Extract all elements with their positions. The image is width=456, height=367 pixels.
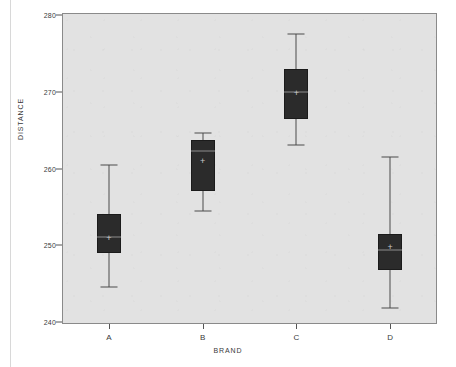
boxplot-figure: 240250260270280 DISTANCE ABCD BRAND ++++: [0, 0, 456, 367]
whisker-cap-lower-d: [382, 308, 399, 309]
y-tick-mark-260: [56, 168, 62, 169]
whisker-lower-c: [296, 119, 297, 146]
x-tick-label-a: A: [106, 333, 111, 342]
median-line-b: [191, 150, 215, 151]
whisker-upper-b: [202, 133, 203, 140]
y-axis-title: DISTANCE: [17, 98, 24, 140]
mean-marker-c: +: [294, 89, 299, 98]
whisker-cap-lower-c: [288, 145, 305, 146]
mean-marker-a: +: [106, 233, 111, 242]
x-tick-mark-b: [203, 324, 204, 329]
x-tick-mark-c: [296, 324, 297, 329]
whisker-lower-d: [390, 270, 391, 308]
whisker-upper-c: [296, 34, 297, 69]
whisker-upper-a: [108, 165, 109, 214]
mean-marker-d: +: [387, 242, 392, 251]
x-tick-label-d: D: [387, 333, 393, 342]
x-tick-label-b: B: [200, 333, 205, 342]
x-axis-title: BRAND: [0, 347, 456, 354]
whisker-cap-upper-d: [382, 156, 399, 157]
y-tick-label-240: 240: [44, 319, 56, 326]
whisker-cap-lower-b: [194, 210, 211, 211]
whisker-lower-b: [202, 191, 203, 211]
whisker-cap-upper-c: [288, 34, 305, 35]
whisker-cap-lower-a: [100, 287, 117, 288]
iqr-box-b: [191, 140, 215, 191]
x-tick-mark-a: [109, 324, 110, 329]
x-tick-mark-d: [390, 324, 391, 329]
y-tick-mark-240: [56, 322, 62, 323]
y-tick-mark-280: [56, 15, 62, 16]
whisker-upper-d: [390, 157, 391, 234]
whisker-cap-upper-b: [194, 133, 211, 134]
y-tick-mark-250: [56, 245, 62, 246]
y-tick-label-260: 260: [44, 165, 56, 172]
y-tick-label-280: 280: [44, 12, 56, 19]
y-axis-tick-labels: 240250260270280: [0, 0, 56, 367]
plot-panel: [62, 13, 437, 324]
y-tick-label-250: 250: [44, 242, 56, 249]
y-tick-mark-270: [56, 91, 62, 92]
iqr-box-d: [378, 234, 402, 270]
whisker-lower-a: [108, 253, 109, 288]
panel-grain-texture: [63, 14, 436, 323]
y-tick-label-270: 270: [44, 88, 56, 95]
whisker-cap-upper-a: [100, 164, 117, 165]
x-tick-label-c: C: [293, 333, 299, 342]
mean-marker-b: +: [200, 156, 205, 165]
